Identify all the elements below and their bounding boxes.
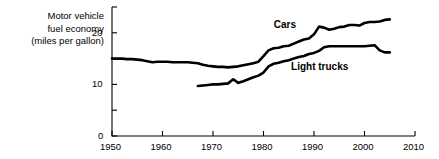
x-tick-label-1960: 1960 bbox=[151, 141, 172, 152]
x-tick-label-2000: 2000 bbox=[353, 141, 374, 152]
y-tick-label-10: 10 bbox=[92, 78, 103, 89]
chart-series-lines bbox=[112, 19, 390, 86]
x-tick-label-1980: 1980 bbox=[252, 141, 273, 152]
x-tick-label-1950: 1950 bbox=[100, 141, 121, 152]
series-label-light-trucks: Light trucks bbox=[291, 61, 348, 72]
chart-plot-area bbox=[0, 0, 439, 159]
series-label-cars: Cars bbox=[274, 19, 296, 30]
x-tick-label-1970: 1970 bbox=[201, 141, 222, 152]
x-tick-label-2010: 2010 bbox=[403, 141, 424, 152]
y-tick-label-0: 0 bbox=[98, 130, 103, 141]
x-tick-label-1990: 1990 bbox=[302, 141, 323, 152]
fuel-economy-chart-figure: Motor vehicle fuel economy (miles per ga… bbox=[0, 0, 439, 159]
y-tick-label-20: 20 bbox=[92, 27, 103, 38]
